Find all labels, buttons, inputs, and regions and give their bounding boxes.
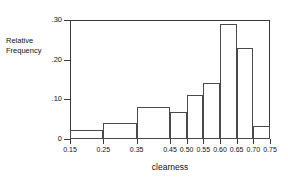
histogram-bar bbox=[237, 48, 254, 139]
histogram-bars bbox=[70, 20, 270, 139]
y-axis-title-line-1: Relative bbox=[6, 36, 64, 46]
x-tick-mark bbox=[253, 139, 254, 144]
y-axis-title: Relative Frequency bbox=[6, 36, 64, 55]
x-tick-mark bbox=[137, 139, 138, 144]
x-tick-mark bbox=[270, 139, 271, 144]
histogram-bar bbox=[103, 123, 136, 139]
x-tick-mark bbox=[70, 139, 71, 144]
x-axis-title: clearness bbox=[70, 162, 270, 172]
x-tick-label: 0.25 bbox=[92, 146, 114, 154]
x-tick-label: 0.75 bbox=[259, 146, 281, 154]
y-tick-label: .20 bbox=[32, 56, 62, 64]
histogram-screenshot: Relative Frequency .30.20.100 0.150.250.… bbox=[0, 0, 288, 182]
y-tick-label: .10 bbox=[32, 95, 62, 103]
histogram-bar bbox=[253, 126, 270, 139]
x-tick-mark bbox=[203, 139, 204, 144]
histogram-bar bbox=[220, 24, 237, 139]
histogram-bar bbox=[170, 112, 187, 139]
histogram-bar bbox=[70, 130, 103, 139]
x-tick-mark bbox=[237, 139, 238, 144]
x-tick-mark bbox=[220, 139, 221, 144]
x-tick-label: 0.15 bbox=[59, 146, 81, 154]
y-tick-label: .30 bbox=[32, 16, 62, 24]
histogram-bar bbox=[137, 107, 170, 139]
x-tick-label: 0.35 bbox=[126, 146, 148, 154]
y-axis-title-line-2: Frequency bbox=[6, 46, 64, 56]
histogram-bar bbox=[187, 95, 204, 139]
y-tick-label: 0 bbox=[32, 135, 62, 143]
x-tick-mark bbox=[170, 139, 171, 144]
histogram-bar bbox=[203, 83, 220, 139]
x-tick-mark bbox=[187, 139, 188, 144]
x-tick-mark bbox=[103, 139, 104, 144]
